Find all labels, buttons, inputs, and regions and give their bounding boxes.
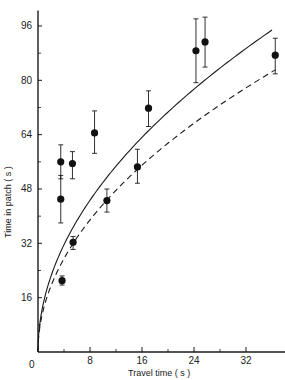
y-axis-label: Time in patch ( s ) (3, 166, 13, 238)
data-point (145, 91, 152, 127)
data-point (201, 17, 208, 67)
x-tick-label: 8 (87, 355, 93, 366)
point-marker (192, 47, 199, 54)
data-point (134, 149, 141, 183)
point-marker (201, 38, 208, 45)
data-point (91, 111, 98, 153)
y-tick-label: 48 (21, 183, 33, 194)
point-marker (145, 105, 152, 112)
dashed-curve (38, 70, 275, 352)
solid-curve (38, 30, 272, 352)
y-tick-label: 16 (21, 292, 33, 303)
y-tick-label: 96 (21, 20, 33, 31)
point-marker (58, 277, 65, 284)
point-marker (70, 239, 77, 246)
x-tick-label: 16 (136, 355, 148, 366)
data-point (272, 38, 279, 74)
fitted-curves (38, 30, 275, 352)
point-marker (272, 52, 279, 59)
x-tick-label: 24 (188, 355, 200, 366)
data-points (57, 17, 279, 285)
scatter-chart: 1632486480968162432 0 Travel time ( s ) … (0, 0, 285, 380)
x-tick-label: 32 (240, 355, 252, 366)
point-marker (134, 163, 141, 170)
y-tick-label: 64 (21, 129, 33, 140)
point-marker (57, 196, 64, 203)
data-point (103, 189, 110, 212)
origin-label: 0 (29, 359, 35, 370)
y-tick-label: 32 (21, 238, 33, 249)
point-marker (57, 158, 64, 165)
x-axis-label: Travel time ( s ) (128, 368, 190, 378)
data-point (192, 19, 199, 83)
y-tick-label: 80 (21, 75, 33, 86)
data-point (57, 145, 64, 179)
point-marker (103, 197, 110, 204)
data-point (69, 152, 76, 179)
data-point (57, 175, 64, 223)
point-marker (91, 129, 98, 136)
data-point (58, 276, 65, 285)
point-marker (69, 160, 76, 167)
